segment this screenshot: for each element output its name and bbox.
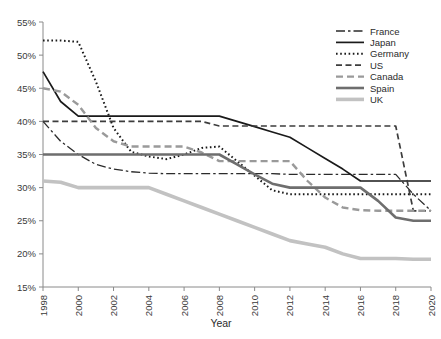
chart-canvas: 55%50%45%40%35%30%25%20%15% 199820002002… xyxy=(0,0,441,339)
y-tick-label: 50% xyxy=(17,50,37,61)
x-tick-label: 2018 xyxy=(390,295,401,316)
y-tick-label: 35% xyxy=(17,149,37,160)
line-chart: 55%50%45%40%35%30%25%20%15% 199820002002… xyxy=(0,0,441,339)
x-tick-label: 2010 xyxy=(249,295,260,316)
legend-label-france: France xyxy=(370,26,400,37)
legend-label-spain: Spain xyxy=(370,83,394,94)
series-line-uk xyxy=(43,181,431,259)
legend-label-canada: Canada xyxy=(370,71,404,82)
x-tick-label: 2004 xyxy=(143,295,154,316)
x-tick-label: 2014 xyxy=(320,295,331,316)
y-axis: 55%50%45%40%35%30%25%20%15% xyxy=(17,17,43,293)
x-tick-label: 2008 xyxy=(214,295,225,316)
y-tick-label: 30% xyxy=(17,182,37,193)
y-tick-label: 20% xyxy=(17,248,37,259)
y-tick-label: 25% xyxy=(17,215,37,226)
legend-label-germany: Germany xyxy=(370,48,409,59)
series-line-canada xyxy=(43,88,431,211)
x-tick-label: 2006 xyxy=(179,295,190,316)
x-axis: 1998200020022004200620082010201220142016… xyxy=(38,287,437,316)
legend-label-japan: Japan xyxy=(370,37,396,48)
y-tick-label: 40% xyxy=(17,116,37,127)
chart-legend: FranceJapanGermanyUSCanadaSpainUK xyxy=(336,26,409,105)
x-tick-label: 1998 xyxy=(38,295,49,316)
y-tick-label: 45% xyxy=(17,83,37,94)
y-tick-label: 55% xyxy=(17,17,37,28)
legend-label-us: US xyxy=(370,60,383,71)
x-tick-label: 2020 xyxy=(426,295,437,316)
x-axis-title: Year xyxy=(210,317,232,329)
y-tick-label: 15% xyxy=(17,282,37,293)
x-tick-label: 2016 xyxy=(355,295,366,316)
x-tick-label: 2002 xyxy=(108,295,119,316)
x-tick-label: 2012 xyxy=(284,295,295,316)
legend-label-uk: UK xyxy=(370,94,384,105)
x-tick-label: 2000 xyxy=(73,295,84,316)
